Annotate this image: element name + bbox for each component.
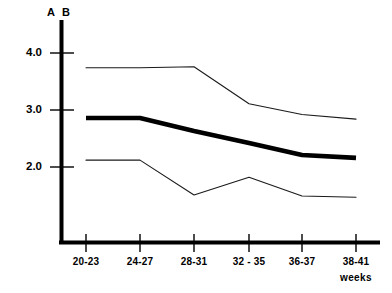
y-tick-label-4: 4.0 <box>8 46 42 58</box>
y-tick-label-2: 2.0 <box>8 160 42 172</box>
series-line-lower-band <box>86 160 356 197</box>
series-line-mean <box>86 118 356 158</box>
x-tick-label-38-41: 38-41 <box>324 256 388 267</box>
y-tick-label-3: 3.0 <box>8 103 42 115</box>
chart-plot-area <box>0 0 392 293</box>
series-line-upper-band <box>86 67 356 119</box>
line-chart: A B 4.0 3.0 2.0 20-23 24-27 28-31 32 - 3… <box>0 0 392 293</box>
x-axis-title: weeks <box>324 272 388 283</box>
